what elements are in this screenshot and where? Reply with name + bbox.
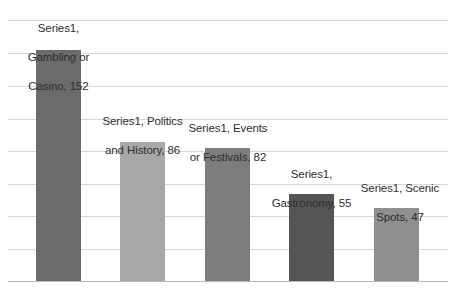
category-axis-line <box>8 281 448 282</box>
plot-area: Series1, Gambling or Casino, 152 Series1… <box>0 0 455 296</box>
data-label-line: Series1, <box>38 22 79 34</box>
data-label-line: Series1, Events <box>188 122 267 134</box>
data-label-line: Series1, Scenic <box>361 182 439 194</box>
data-label-scenic-spots: Series1, Scenic Spots, 47 <box>346 166 454 224</box>
data-label-line: Spots, 47 <box>376 211 424 223</box>
data-label-line: Gastronomy, 55 <box>272 197 352 209</box>
bar-events-or-festivals[interactable] <box>205 148 250 281</box>
data-label-line: Series1, <box>291 168 332 180</box>
data-label-gambling-or-casino: Series1, Gambling or Casino, 152 <box>6 6 111 93</box>
data-label-line: Gambling or <box>28 51 90 63</box>
bar-politics-and-history[interactable] <box>120 142 165 281</box>
bar-chart: Series1, Gambling or Casino, 152 Series1… <box>0 0 455 296</box>
data-label-line: and History, 86 <box>105 144 180 156</box>
data-label-line: Series1, Politics <box>102 115 182 127</box>
data-label-line: Casino, 152 <box>28 80 88 92</box>
